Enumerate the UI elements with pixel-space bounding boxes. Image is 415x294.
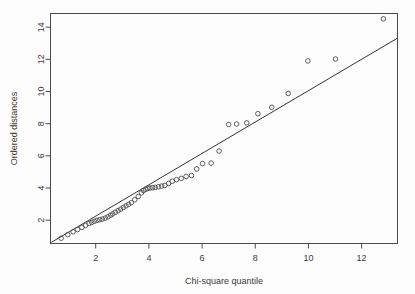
plot-border [51,14,398,244]
data-point [179,176,184,181]
reference-line [51,38,397,242]
x-tick-label: 12 [357,253,367,263]
data-point [256,111,261,116]
data-point [189,173,194,178]
data-point [269,105,274,110]
x-tick-label: 10 [303,253,313,263]
x-tick-label: 2 [93,253,98,263]
y-tick-label: 14 [36,22,46,32]
data-point [226,122,231,127]
data-point [306,59,311,64]
y-axis-title: Ordered distances [9,91,19,165]
data-point [174,177,179,182]
data-point [209,161,214,166]
x-tick-label: 8 [253,253,258,263]
qq-plot-figure: 246810122468101214Chi-square quantileOrd… [0,0,415,294]
y-tick-label: 2 [36,218,46,223]
data-point [244,121,249,126]
y-tick-label: 10 [36,86,46,96]
data-point [381,17,386,22]
y-tick-label: 12 [36,54,46,64]
x-tick-label: 6 [200,253,205,263]
data-point [286,91,291,96]
chart-canvas: 246810122468101214Chi-square quantileOrd… [0,0,415,294]
data-point [71,229,76,234]
y-tick-label: 6 [36,153,46,158]
data-point [234,122,239,127]
x-tick-label: 4 [146,253,151,263]
y-tick-label: 8 [36,121,46,126]
data-point [333,57,338,62]
y-tick-label: 4 [36,186,46,191]
data-point [184,174,189,179]
data-point [194,167,199,172]
data-point [200,161,205,166]
data-point-group [59,17,386,241]
data-point [217,149,222,154]
x-axis-title: Chi-square quantile [185,276,263,286]
